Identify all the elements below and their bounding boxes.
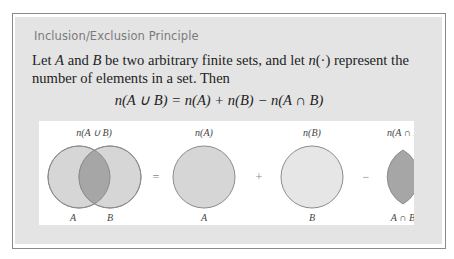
- set-a-venn: n(A) A: [173, 127, 235, 223]
- circle-b-alone: [281, 146, 343, 208]
- circle-a-alone: [173, 146, 235, 208]
- set-a-symbol: A: [55, 52, 64, 68]
- equals-sign: =: [153, 170, 160, 184]
- plus-sign: +: [256, 170, 263, 184]
- set-a-bottom-label: A: [200, 212, 208, 223]
- theorem-box: Inclusion/Exclusion Principle Let A and …: [12, 13, 446, 249]
- set-b-symbol: B: [92, 52, 101, 68]
- theorem-statement: Let A and B be two arbitrary finite sets…: [32, 51, 432, 87]
- venn-diagrams: n(A ∪ B) A B = n(A) A + n(B) B −: [39, 121, 414, 225]
- intersection-top-label: n(A ∩ B): [387, 127, 414, 139]
- set-b-venn: n(B) B: [281, 127, 343, 223]
- set-b-bottom-label: B: [309, 212, 315, 223]
- intersection-lens: [387, 150, 414, 204]
- union-top-label: n(A ∪ B): [76, 127, 112, 139]
- statement-text: be two arbitrary finite sets, and let: [101, 52, 308, 68]
- intersection-venn: n(A ∩ B) A ∩ B: [387, 127, 414, 223]
- union-venn: n(A ∪ B) A B: [48, 127, 141, 223]
- set-a-top-label: n(A): [195, 127, 213, 139]
- venn-diagram-panel: n(A ∪ B) A B = n(A) A + n(B) B −: [39, 121, 414, 225]
- set-b-top-label: n(B): [303, 127, 321, 139]
- minus-sign: −: [363, 170, 370, 184]
- intersection-bottom-label: A ∩ B: [390, 212, 414, 223]
- union-label-b: B: [107, 212, 113, 223]
- statement-text: and: [64, 52, 92, 68]
- formula-text: n(A ∪ B) = n(A) + n(B) − n(A ∩ B): [115, 92, 324, 108]
- theorem-title: Inclusion/Exclusion Principle: [34, 29, 199, 43]
- formula: n(A ∪ B) = n(A) + n(B) − n(A ∩ B): [13, 91, 445, 109]
- union-label-a: A: [69, 212, 77, 223]
- statement-text: Let: [32, 52, 55, 68]
- count-function-symbol: n: [308, 52, 315, 68]
